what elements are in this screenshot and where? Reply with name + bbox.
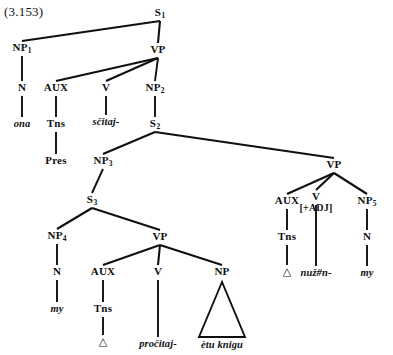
tree-edge-vp2-np5 xyxy=(334,173,367,194)
tree-node-np1: NP1 xyxy=(12,42,31,54)
tree-node-tns2: Tns xyxy=(278,231,296,243)
tree-node-subscript-np4: 4 xyxy=(63,234,67,243)
tree-node-label-np5: NP xyxy=(357,194,372,206)
tree-node-nuzn: nuž#n- xyxy=(301,267,332,278)
tree-node-label-np3: NP xyxy=(93,154,108,166)
tree-node-np2: NP2 xyxy=(145,82,164,94)
tree-node-label-n2: N xyxy=(53,265,61,277)
tree-node-label-tns1: Tns xyxy=(47,117,65,129)
tree-node-label-s2: S xyxy=(150,117,156,129)
tree-node-s3: S3 xyxy=(87,194,97,206)
tree-node-label-nuzn: nuž#n- xyxy=(301,267,332,278)
tree-node-label-etuknigu: ètu knigu xyxy=(201,339,243,350)
tree-edges-canvas xyxy=(0,0,393,355)
tree-node-vp3: VP xyxy=(152,231,167,243)
tree-edge-vp2-v2 xyxy=(316,173,334,190)
tree-node-np4: NP4 xyxy=(47,230,66,242)
tree-node-label-np6: NP xyxy=(214,265,229,277)
tree-node-aux1: AUX xyxy=(44,82,68,94)
tree-node-my1: my xyxy=(50,303,63,314)
tree-node-aux3: AUX xyxy=(91,266,115,278)
tree-node-ona: ona xyxy=(14,118,31,129)
tree-node-etuknigu: ètu knigu xyxy=(201,339,243,350)
tree-node-np6: NP xyxy=(214,266,229,278)
tree-node-aux2: AUX xyxy=(275,195,299,207)
tree-node-subscript-s1: 1 xyxy=(161,11,165,20)
tree-node-scitaj: sčitaj- xyxy=(93,116,120,127)
tree-node-v1: V xyxy=(102,82,110,94)
tree-node-label-procitaj: pročitaj- xyxy=(139,338,177,349)
tree-node-s1: S1 xyxy=(155,7,165,19)
tree-node-n3: N xyxy=(363,231,371,243)
tree-node-label-my2: my xyxy=(360,267,373,278)
tree-edge-s3-np4 xyxy=(57,208,92,229)
tree-node-v2_feat: [+ADJ] xyxy=(299,203,332,214)
tree-node-subscript-np1: 1 xyxy=(28,46,32,55)
tree-node-label-pres: Pres xyxy=(45,154,66,166)
tree-node-label-aux1: AUX xyxy=(44,81,68,93)
tree-edge-s2-np3 xyxy=(103,132,155,154)
tree-edge-vp2-aux2 xyxy=(287,173,334,194)
tree-diagram-figure: (3.153) S1NP1VPNAUXVNP2onaTnssčitaj-S2Pr… xyxy=(0,0,393,355)
tree-node-vp1: VP xyxy=(150,44,165,56)
np-etu-knigu-triangle xyxy=(199,282,245,337)
tree-node-n2: N xyxy=(53,266,61,278)
tree-edge-vp1-np2 xyxy=(155,58,158,81)
tree-node-label-np2: NP xyxy=(145,81,160,93)
tree-node-label-aux2: AUX xyxy=(275,194,299,206)
tree-node-label-ona: ona xyxy=(14,118,31,129)
tree-node-pres: Pres xyxy=(45,155,66,167)
tree-edge-vp3-aux3 xyxy=(103,245,160,265)
tree-edge-vp1-aux1 xyxy=(56,58,158,81)
tree-node-label-tns3: Tns xyxy=(94,302,112,314)
tree-node-label-delta1: △ xyxy=(99,335,108,347)
tree-edge-vp1-v1 xyxy=(106,58,158,81)
tree-node-tns1: Tns xyxy=(47,118,65,130)
tree-edge-s2-vp2 xyxy=(155,132,334,158)
tree-node-label-np1: NP xyxy=(12,41,27,53)
tree-edge-vp3-v3 xyxy=(158,245,160,265)
tree-node-s2: S2 xyxy=(150,118,160,130)
tree-node-label-np4: NP xyxy=(47,229,62,241)
tree-node-delta2: △ xyxy=(283,266,292,278)
tree-node-subscript-s2: 2 xyxy=(156,122,160,131)
tree-node-label-vp2: VP xyxy=(326,158,341,170)
tree-node-subscript-s3: 3 xyxy=(93,198,97,207)
tree-node-delta1: △ xyxy=(99,336,108,348)
tree-node-label-tns2: Tns xyxy=(278,230,296,242)
tree-node-v3: V xyxy=(154,266,162,278)
tree-node-label-v1: V xyxy=(102,81,110,93)
tree-edge-s3-vp3 xyxy=(92,208,160,230)
tree-edge-s1-np1 xyxy=(22,21,160,41)
tree-edge-vp3-np6 xyxy=(160,245,222,265)
tree-node-label-scitaj: sčitaj- xyxy=(93,116,120,127)
tree-node-label-vp1: VP xyxy=(150,43,165,55)
tree-node-label-aux3: AUX xyxy=(91,265,115,277)
tree-edge-np3-s3 xyxy=(92,169,103,193)
tree-node-label-my1: my xyxy=(50,303,63,314)
tree-node-n1: N xyxy=(18,82,26,94)
tree-node-my2: my xyxy=(360,267,373,278)
tree-node-label-s1: S xyxy=(155,6,161,18)
tree-node-label-vp3: VP xyxy=(152,230,167,242)
tree-node-label-v2_feat: [+ADJ] xyxy=(299,202,332,213)
tree-node-label-v3: V xyxy=(154,265,162,277)
tree-node-label-s3: S xyxy=(87,193,93,205)
tree-node-vp2: VP xyxy=(326,159,341,171)
tree-node-tns3: Tns xyxy=(94,303,112,315)
tree-node-subscript-np2: 2 xyxy=(161,86,165,95)
tree-node-label-delta2: △ xyxy=(283,265,292,277)
tree-node-subscript-np3: 3 xyxy=(109,159,113,168)
tree-edge-s1-vp1 xyxy=(158,21,160,43)
tree-node-np3: NP3 xyxy=(93,155,112,167)
tree-node-subscript-np5: 5 xyxy=(373,199,377,208)
tree-node-label-n1: N xyxy=(18,81,26,93)
tree-node-label-v2: V xyxy=(312,190,320,202)
tree-node-procitaj: pročitaj- xyxy=(139,338,177,349)
tree-node-label-n3: N xyxy=(363,230,371,242)
tree-node-np5: NP5 xyxy=(357,195,376,207)
